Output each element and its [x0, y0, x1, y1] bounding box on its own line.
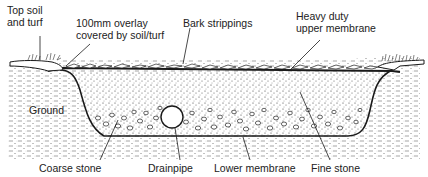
label-ground: Ground [29, 104, 64, 116]
label-lower-membrane: Lower membrane [214, 162, 296, 174]
label-coarse-stone: Coarse stone [39, 162, 101, 174]
label-bark-strippings: Bark strippings [183, 17, 252, 29]
drainpipe-circle [161, 106, 183, 128]
label-upper-membrane: Heavy duty upper membrane [296, 10, 376, 34]
drainage-cross-section-diagram: Top soil and turf 100mm overlay covered … [0, 0, 428, 177]
leader-bark [183, 28, 190, 64]
label-fine-stone: Fine stone [311, 162, 360, 174]
label-top-soil: Top soil and turf [7, 4, 43, 28]
label-overlay: 100mm overlay covered by soil/turf [76, 17, 164, 41]
label-drainpipe: Drainpipe [148, 162, 193, 174]
